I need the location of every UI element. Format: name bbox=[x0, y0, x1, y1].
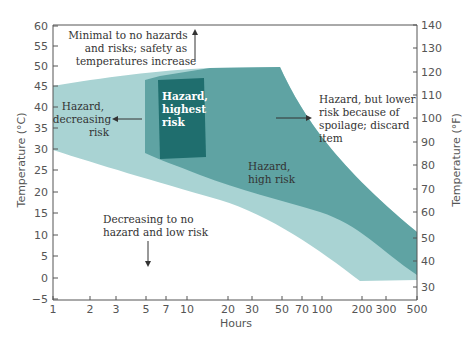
svg-text:risk: risk bbox=[89, 126, 110, 138]
svg-text:risk because of: risk because of bbox=[319, 106, 401, 118]
svg-text:highest: highest bbox=[162, 103, 206, 115]
y-right-tick-label: 60 bbox=[421, 206, 435, 219]
x-tick-label: 7 bbox=[163, 303, 170, 316]
y-left-tick-label: −5 bbox=[32, 293, 48, 306]
x-axis-ticks: 123571020305070100200300500 bbox=[50, 296, 428, 316]
svg-text:temperatures increase: temperatures increase bbox=[76, 55, 197, 67]
y-left-tick-label: 0 bbox=[41, 272, 48, 285]
svg-text:high risk: high risk bbox=[248, 173, 296, 185]
y-left-tick-label: 10 bbox=[34, 229, 48, 242]
x-tick-label: 500 bbox=[407, 303, 428, 316]
svg-text:and risks; safety as: and risks; safety as bbox=[85, 42, 187, 54]
y-right-tick-label: 40 bbox=[421, 255, 435, 268]
svg-text:Minimal to no hazards: Minimal to no hazards bbox=[68, 29, 187, 41]
annotation-minimal-hazards: Minimal to no hazards and risks; safety … bbox=[68, 29, 198, 67]
y-right-tick-label: 140 bbox=[421, 19, 442, 32]
y-left-tick-label: 5 bbox=[41, 250, 48, 263]
annotation-low-risk: Decreasing to no hazard and low risk bbox=[103, 213, 209, 267]
x-tick-label: 1 bbox=[50, 303, 57, 316]
x-tick-label: 70 bbox=[295, 303, 309, 316]
y-left-tick-label: 20 bbox=[34, 186, 48, 199]
svg-text:decreasing: decreasing bbox=[53, 113, 112, 125]
svg-text:Hazard, but lower: Hazard, but lower bbox=[319, 93, 417, 105]
y-right-tick-label: 50 bbox=[421, 232, 435, 245]
y-left-tick-label: 25 bbox=[34, 164, 48, 177]
svg-text:risk: risk bbox=[162, 116, 185, 128]
x-tick-label: 5 bbox=[143, 303, 150, 316]
svg-text:hazard and low risk: hazard and low risk bbox=[103, 226, 209, 238]
y-left-tick-label: 15 bbox=[34, 207, 48, 220]
y-right-tick-label: 130 bbox=[421, 42, 442, 55]
svg-text:Hazard,: Hazard, bbox=[248, 160, 290, 172]
svg-text:Hazard,: Hazard, bbox=[162, 90, 208, 102]
arrow-up-icon bbox=[192, 29, 198, 35]
y-left-tick-label: 40 bbox=[34, 101, 48, 114]
y-right-tick-label: 110 bbox=[421, 89, 442, 102]
arrow-down-icon bbox=[145, 261, 151, 267]
y-axis-left-title: Temperature (°C) bbox=[15, 113, 28, 209]
y-left-tick-label: 55 bbox=[34, 40, 48, 53]
y-right-tick-label: 30 bbox=[421, 281, 435, 294]
hazard-chart: 123571020305070100200300500 605550454035… bbox=[0, 0, 473, 343]
x-tick-label: 300 bbox=[376, 303, 397, 316]
svg-text:Decreasing to no: Decreasing to no bbox=[103, 213, 194, 225]
y-left-tick-label: 30 bbox=[34, 143, 48, 156]
y-left-tick-label: 60 bbox=[34, 20, 48, 33]
y-right-tick-label: 120 bbox=[421, 66, 442, 79]
x-tick-label: 3 bbox=[113, 303, 120, 316]
y-right-tick-label: 80 bbox=[421, 159, 435, 172]
svg-text:spoilage; discard: spoilage; discard bbox=[319, 119, 410, 131]
x-tick-label: 20 bbox=[221, 303, 235, 316]
svg-text:item: item bbox=[319, 132, 343, 144]
x-tick-label: 30 bbox=[245, 303, 259, 316]
y-right-tick-label: 100 bbox=[421, 112, 442, 125]
annotation-high-risk: Hazard, high risk bbox=[248, 160, 296, 185]
x-axis-title: Hours bbox=[220, 317, 252, 330]
x-tick-label: 200 bbox=[352, 303, 373, 316]
y-axis-left-ticks: 605550454035302520151050−5 bbox=[32, 20, 58, 306]
x-tick-label: 2 bbox=[87, 303, 94, 316]
svg-text:Hazard,: Hazard, bbox=[62, 100, 104, 112]
y-axis-right-title: Temperature (°F) bbox=[450, 113, 463, 208]
y-left-tick-label: 50 bbox=[34, 60, 48, 73]
x-tick-label: 10 bbox=[180, 303, 194, 316]
y-right-tick-label: 70 bbox=[421, 183, 435, 196]
x-tick-label: 100 bbox=[312, 303, 333, 316]
y-left-tick-label: 45 bbox=[34, 80, 48, 93]
y-left-tick-label: 35 bbox=[34, 122, 48, 135]
x-tick-label: 50 bbox=[275, 303, 289, 316]
y-right-tick-label: 90 bbox=[421, 136, 435, 149]
